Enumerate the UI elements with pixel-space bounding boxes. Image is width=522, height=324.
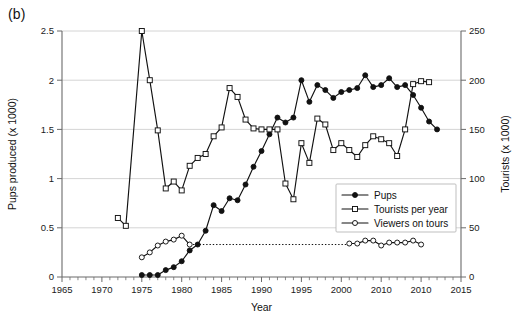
data-point-viewers-on-tours [395,240,400,245]
data-point-pups [171,265,176,270]
y-tick-label-right: 250 [469,25,485,36]
data-point-pups [211,203,216,208]
data-point-viewers-on-tours [387,240,392,245]
y-tick-label-right: 150 [469,124,485,135]
data-point-viewers-on-tours [179,233,184,238]
data-point-tourists-per-year [203,152,208,157]
data-point-tourists-per-year [291,197,296,202]
legend-marker-open-square [353,207,358,212]
x-tick-label: 1965 [51,284,72,295]
data-point-pups [203,228,208,233]
data-point-tourists-per-year [323,122,328,127]
data-point-pups [187,248,192,253]
data-point-tourists-per-year [347,148,352,153]
data-point-viewers-on-tours [147,250,152,255]
x-tick-label: 2010 [371,284,392,295]
y-tick-label-left: 1 [49,173,54,184]
legend-label: Tourists per year [374,204,449,215]
data-point-pups [387,76,392,81]
data-point-pups [235,198,240,203]
data-point-pups [347,88,352,93]
data-point-pups [243,182,248,187]
y-tick-label-left: 1.5 [41,124,54,135]
x-tick-label: 1985 [211,284,232,295]
y-tick-label-left: 0.5 [41,222,54,233]
x-tick-label: 1990 [251,284,272,295]
data-point-viewers-on-tours [355,241,360,246]
data-point-tourists-per-year [211,134,216,139]
data-point-pups [227,196,232,201]
x-axis-title: Year [251,301,273,313]
data-point-pups [251,164,256,169]
data-point-pups [219,209,224,214]
data-point-pups [419,105,424,110]
y-axis-title-right: Tourists (x 1000) [499,115,511,193]
data-point-pups [323,88,328,93]
data-point-tourists-per-year [403,127,408,132]
data-point-tourists-per-year [363,143,368,148]
x-tick-label: 1975 [131,284,152,295]
y-tick-label-left: 2.5 [41,25,54,36]
y-tick-label-right: 200 [469,75,485,86]
data-point-pups [283,120,288,125]
data-point-tourists-per-year [235,94,240,99]
data-point-pups [291,115,296,120]
legend-marker-open-circle [353,221,358,226]
data-point-pups [179,259,184,264]
data-point-tourists-per-year [307,160,312,165]
data-point-pups [275,115,280,120]
data-point-tourists-per-year [331,148,336,153]
data-point-pups [339,90,344,95]
legend-label: Viewers on tours [374,218,448,229]
data-point-tourists-per-year [427,80,432,85]
data-point-viewers-on-tours [379,243,384,248]
data-point-tourists-per-year [267,127,272,132]
y-tick-label-left: 0 [49,271,54,282]
data-point-tourists-per-year [259,127,264,132]
data-point-tourists-per-year [251,126,256,131]
data-point-pups [155,273,160,278]
data-point-tourists-per-year [371,134,376,139]
data-point-viewers-on-tours [403,240,408,245]
data-point-tourists-per-year [315,116,320,121]
data-point-tourists-per-year [147,78,152,83]
data-point-pups [307,99,312,104]
y-tick-label-right: 50 [469,222,480,233]
legend-label: Pups [374,190,397,201]
x-tick-label: 1970 [91,284,112,295]
data-point-viewers-on-tours [163,239,168,244]
data-point-pups [435,127,440,132]
data-point-pups [331,95,336,100]
data-point-pups [427,119,432,124]
x-tick-label: 2010 [411,284,432,295]
data-point-viewers-on-tours [371,238,376,243]
data-point-viewers-on-tours [139,255,144,260]
data-point-tourists-per-year [179,188,184,193]
data-point-tourists-per-year [123,223,128,228]
data-point-pups [259,149,264,154]
data-point-tourists-per-year [395,153,400,158]
data-point-pups [315,83,320,88]
x-tick-label: 1995 [291,284,312,295]
data-point-tourists-per-year [227,86,232,91]
data-point-viewers-on-tours [347,241,352,246]
data-point-pups [195,242,200,247]
data-point-tourists-per-year [155,128,160,133]
data-point-tourists-per-year [171,179,176,184]
data-point-viewers-on-tours [411,238,416,243]
x-tick-label: 2015 [450,284,471,295]
data-point-tourists-per-year [355,154,360,159]
data-point-tourists-per-year [339,141,344,146]
data-point-pups [363,73,368,78]
data-point-tourists-per-year [195,155,200,160]
data-point-tourists-per-year [419,79,424,84]
data-point-tourists-per-year [243,117,248,122]
data-point-pups [379,83,384,88]
x-tick-label: 2000 [331,284,352,295]
data-point-viewers-on-tours [363,238,368,243]
data-point-viewers-on-tours [187,242,192,247]
data-point-viewers-on-tours [171,237,176,242]
data-point-pups [147,273,152,278]
data-point-pups [403,83,408,88]
data-point-tourists-per-year [411,82,416,87]
